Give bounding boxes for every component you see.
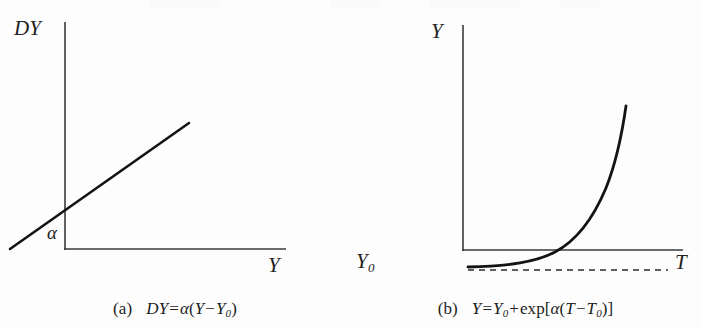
panel-b-caption-plus: + — [508, 299, 520, 318]
panel-b-caption-y0: Y — [493, 299, 503, 318]
panel-a-caption-var0: Y — [216, 299, 226, 318]
panel-b-y0-label: Y0 — [356, 249, 374, 276]
panel-a-caption-equals: = — [168, 299, 180, 318]
panel-a-data-line — [10, 123, 189, 249]
panel-b-y0-subscript: 0 — [368, 260, 375, 275]
panel-a-caption: (a)DY=α(Y−Y0) — [0, 299, 350, 319]
panel-a-caption-lhs: DY — [146, 299, 168, 318]
panel-b-y-axis-label: Y — [431, 19, 443, 44]
figure-sheet: DY Y α (a)DY=α(Y−Y0) Y Y0 T (b)Y=Y0+exp[… — [0, 0, 701, 327]
panel-a-plot — [0, 0, 350, 327]
panel-a-caption-var: Y — [195, 299, 205, 318]
panel-b-caption-tag: (b) — [438, 299, 458, 318]
panel-a-caption-close-paren: ) — [231, 299, 237, 318]
panel-b-y0-base: Y — [356, 249, 368, 273]
panel-a-caption-alpha: α — [180, 299, 189, 318]
panel-a: DY Y α (a)DY=α(Y−Y0) — [0, 0, 350, 327]
panel-b-data-curve — [468, 106, 626, 267]
panel-b-caption: (b)Y=Y0+exp[α(T−T0)] — [350, 299, 701, 319]
panel-b-caption-minus: − — [575, 299, 587, 318]
panel-b-x-axis-label: T — [675, 250, 687, 275]
panel-a-y-axis-label: DY — [14, 16, 41, 41]
panel-b-caption-equation: Y=Y0+exp[α(T−T0)] — [472, 299, 613, 318]
panel-b-caption-close-bracket: ] — [608, 299, 614, 318]
panel-a-x-axis-label: Y — [268, 253, 280, 278]
panel-a-caption-minus: − — [204, 299, 216, 318]
panel-b-caption-exp: exp — [520, 299, 545, 318]
panel-a-slope-label: α — [47, 222, 57, 244]
panel-b: Y Y0 T (b)Y=Y0+exp[α(T−T0)] — [350, 0, 701, 327]
panel-b-caption-var: T — [565, 299, 575, 318]
panel-b-caption-equals: = — [481, 299, 493, 318]
panel-b-caption-var0: T — [587, 299, 597, 318]
panel-b-plot — [350, 0, 701, 327]
panel-b-caption-lhs: Y — [472, 299, 482, 318]
panel-b-caption-alpha: α — [551, 299, 560, 318]
panel-a-caption-equation: DY=α(Y−Y0) — [146, 299, 237, 318]
panel-a-caption-tag: (a) — [113, 299, 132, 318]
